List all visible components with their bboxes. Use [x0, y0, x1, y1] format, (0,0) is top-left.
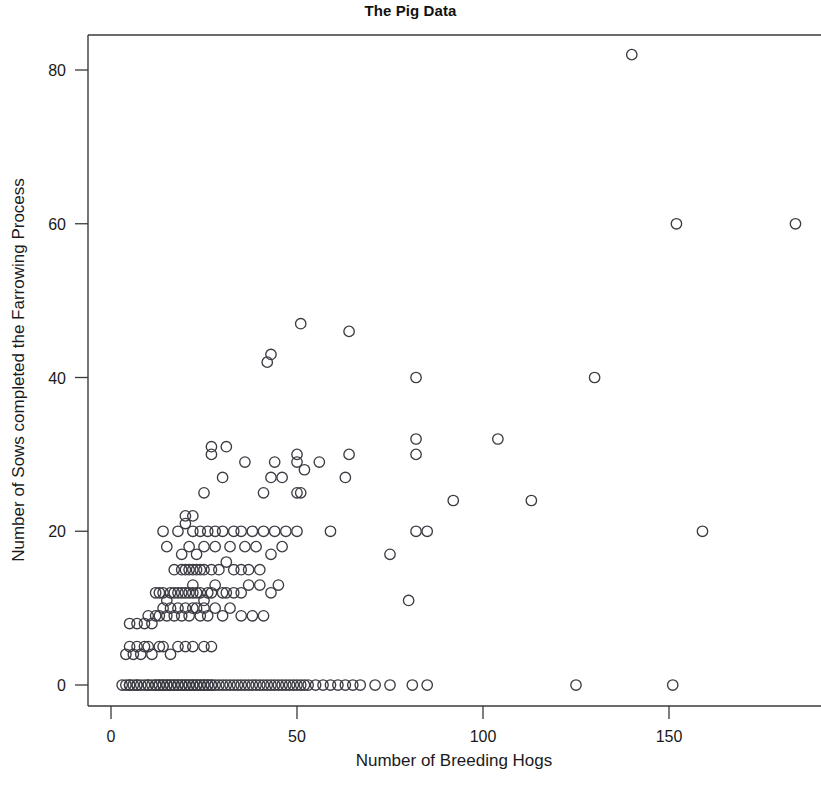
data-point: [258, 611, 268, 621]
data-point: [493, 434, 503, 444]
data-point: [236, 611, 246, 621]
y-tick-label: 20: [48, 523, 66, 540]
data-point: [258, 526, 268, 536]
data-point: [370, 680, 380, 690]
data-point: [206, 641, 216, 651]
data-point: [448, 495, 458, 505]
data-point: [325, 526, 335, 536]
data-point: [411, 372, 421, 382]
data-point: [589, 372, 599, 382]
data-point: [296, 318, 306, 328]
data-point: [210, 541, 220, 551]
data-point: [277, 472, 287, 482]
data-point: [255, 564, 265, 574]
data-point: [292, 449, 302, 459]
data-point: [671, 219, 681, 229]
data-point: [411, 434, 421, 444]
data-point: [247, 611, 257, 621]
data-point: [240, 541, 250, 551]
data-point: [236, 526, 246, 536]
data-point: [255, 580, 265, 590]
data-point: [627, 49, 637, 59]
y-tick-label: 80: [48, 62, 66, 79]
data-point: [266, 472, 276, 482]
data-point: [571, 680, 581, 690]
data-point: [206, 441, 216, 451]
data-point: [188, 511, 198, 521]
data-point: [314, 457, 324, 467]
data-point: [217, 526, 227, 536]
data-point: [221, 441, 231, 451]
data-point: [258, 488, 268, 498]
x-axis-tick-labels: 050100150: [107, 728, 683, 745]
x-axis-title: Number of Breeding Hogs: [356, 751, 553, 770]
data-points-layer: [117, 49, 801, 690]
data-point: [422, 526, 432, 536]
data-point: [407, 680, 417, 690]
x-tick-label: 50: [288, 728, 306, 745]
y-axis-tick-labels: 020406080: [48, 62, 66, 694]
data-point: [243, 580, 253, 590]
y-tick-label: 0: [57, 677, 66, 694]
data-point: [422, 680, 432, 690]
scatter-plot-canvas: 050100150 020406080 Number of Breeding H…: [0, 0, 821, 785]
data-point: [217, 472, 227, 482]
data-point: [269, 457, 279, 467]
data-point: [411, 449, 421, 459]
data-point: [199, 488, 209, 498]
data-point: [790, 219, 800, 229]
data-point: [281, 526, 291, 536]
data-point: [385, 680, 395, 690]
data-point: [344, 449, 354, 459]
data-point: [273, 580, 283, 590]
data-point: [162, 541, 172, 551]
x-tick-label: 0: [107, 728, 116, 745]
data-point: [355, 680, 365, 690]
data-point: [225, 603, 235, 613]
data-point: [403, 595, 413, 605]
data-point: [199, 541, 209, 551]
data-point: [158, 526, 168, 536]
y-axis-title: Number of Sows completed the Farrowing P…: [9, 178, 28, 562]
x-tick-label: 100: [470, 728, 497, 745]
data-point: [243, 564, 253, 574]
data-point: [188, 641, 198, 651]
data-point: [225, 541, 235, 551]
x-tick-label: 150: [656, 728, 683, 745]
data-point: [697, 526, 707, 536]
chart-figure: The Pig Data 050100150 020406080 Number …: [0, 0, 821, 785]
data-point: [251, 541, 261, 551]
data-point: [299, 465, 309, 475]
y-axis-ticks: [75, 70, 88, 685]
data-point: [240, 457, 250, 467]
data-point: [668, 680, 678, 690]
data-point: [344, 326, 354, 336]
data-point: [292, 526, 302, 536]
y-tick-label: 60: [48, 216, 66, 233]
x-axis-ticks: [111, 706, 669, 719]
data-point: [269, 526, 279, 536]
y-tick-label: 40: [48, 370, 66, 387]
data-point: [247, 526, 257, 536]
data-point: [385, 549, 395, 559]
data-point: [411, 526, 421, 536]
data-point: [340, 472, 350, 482]
data-point: [277, 541, 287, 551]
data-point: [266, 549, 276, 559]
data-point: [526, 495, 536, 505]
